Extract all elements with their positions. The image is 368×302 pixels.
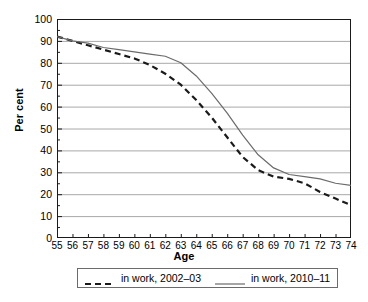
y-tick-label: 60 bbox=[22, 102, 52, 112]
series-line-solid bbox=[57, 37, 351, 186]
series-line-dashed bbox=[57, 37, 351, 206]
legend-label: in work, 2002–03 bbox=[121, 272, 201, 284]
legend-dashed-line-icon bbox=[85, 274, 115, 282]
legend-item: in work, 2010–11 bbox=[215, 272, 330, 284]
y-tick-label: 90 bbox=[22, 36, 52, 46]
plot-area bbox=[57, 19, 351, 238]
legend-item: in work, 2002–03 bbox=[85, 272, 201, 284]
x-axis-title: Age bbox=[0, 250, 368, 262]
chart-figure: Per cent 0102030405060708090100 55565758… bbox=[0, 0, 368, 302]
plot-svg bbox=[57, 19, 351, 238]
y-tick-label: 100 bbox=[22, 14, 52, 24]
y-tick-label: 20 bbox=[22, 189, 52, 199]
legend-solid-line-icon bbox=[215, 274, 245, 282]
y-tick-label: 10 bbox=[22, 211, 52, 221]
y-tick-label: 30 bbox=[22, 167, 52, 177]
y-tick-label: 50 bbox=[22, 124, 52, 134]
y-tick-label: 80 bbox=[22, 58, 52, 68]
legend-label: in work, 2010–11 bbox=[251, 272, 330, 284]
chart-legend: in work, 2002–03in work, 2010–11 bbox=[77, 268, 338, 288]
y-tick-label: 40 bbox=[22, 145, 52, 155]
y-tick-label: 70 bbox=[22, 80, 52, 90]
